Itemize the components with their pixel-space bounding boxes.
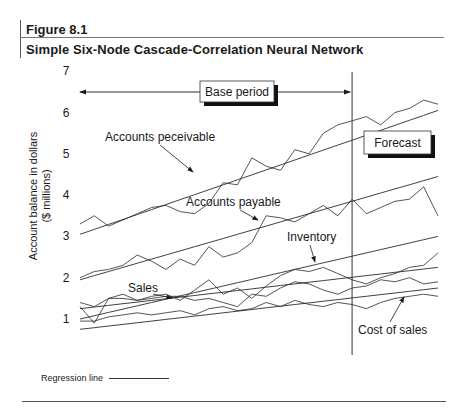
regression-line (80, 110, 438, 234)
regression-line (80, 177, 438, 280)
accounts-payable-label: Accounts payable (186, 195, 281, 209)
y-tick-label: 1 (63, 312, 70, 326)
y-tick-label: 3 (63, 229, 70, 243)
base-period-label: Base period (205, 85, 269, 99)
cost-of-sales-label: Cost of sales (358, 323, 427, 337)
y-tick-label: 5 (63, 147, 70, 161)
forecast-label: Forecast (374, 136, 421, 150)
data-series-line (80, 294, 438, 321)
inventory-arrow (310, 245, 315, 262)
legend: Regression line (41, 373, 169, 383)
legend-label: Regression line (41, 373, 103, 383)
cost-of-sales-arrow (390, 297, 404, 322)
chart: 1234567Account balance in dollars($ mill… (0, 0, 461, 415)
y-tick-label: 7 (63, 64, 70, 78)
sales-label: Sales (128, 281, 158, 295)
accounts-receivable-label: Accounts peceivable (105, 130, 215, 144)
y-tick-label: 4 (63, 188, 70, 202)
accounts-payable-arrow (240, 210, 258, 220)
inventory-label: Inventory (287, 230, 336, 244)
regression-line-swatch (109, 378, 169, 379)
y-axis-label: Account balance in dollars($ millions) (27, 131, 52, 260)
data-series-line (80, 253, 438, 307)
accounts-receivable-arrow (160, 145, 193, 172)
bottom-rule (22, 401, 446, 402)
y-tick-label: 2 (63, 271, 70, 285)
regression-line (80, 236, 438, 319)
y-tick-label: 6 (63, 106, 70, 120)
